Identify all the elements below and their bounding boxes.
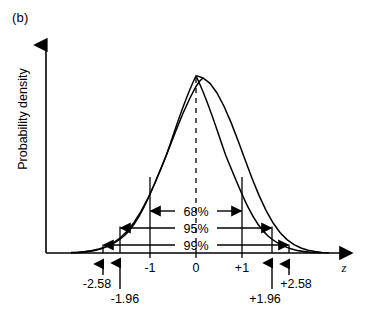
pointer-label-neg-1-96: -1.96 — [111, 292, 140, 306]
xtick-label-neg-1: -1 — [144, 261, 155, 275]
xtick-label-pos-1: +1 — [235, 261, 249, 275]
pointer-label-pos-2-58: +2.58 — [280, 277, 312, 291]
band-label-99: 99% — [183, 239, 208, 253]
pointer-label-pos-1-96: +1.96 — [249, 292, 281, 306]
normal-distribution-chart: 68% 95% 99% -1 0 +1 z -2.58 -1.96 +1.96 … — [0, 0, 376, 316]
pointer-label-neg-2-58: -2.58 — [83, 277, 112, 291]
band-label-68: 68% — [183, 205, 208, 219]
figure-panel-b: (b) Probability density — [0, 0, 376, 316]
band-label-95: 95% — [183, 222, 208, 236]
xtick-label-zero: 0 — [193, 261, 200, 275]
x-axis-label: z — [341, 261, 347, 275]
